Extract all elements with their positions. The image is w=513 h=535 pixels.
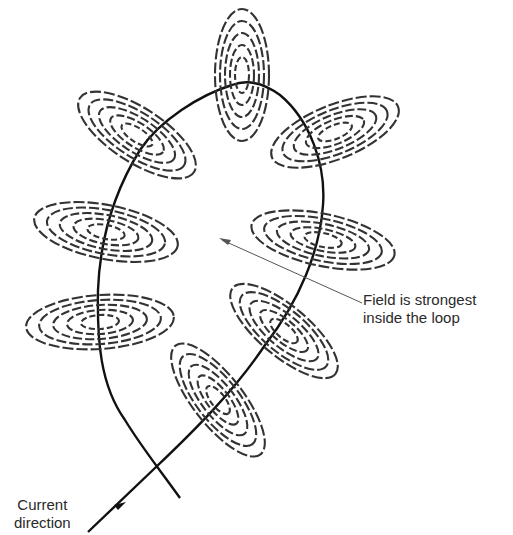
current-arrow-icon bbox=[114, 502, 126, 510]
field-pointer-arrow-icon bbox=[219, 238, 231, 245]
field-pointer-line bbox=[222, 240, 362, 303]
field-label-line1: Field is strongest bbox=[363, 291, 476, 309]
current-label-line1: Current bbox=[14, 496, 71, 514]
current-loop-diagram bbox=[0, 0, 513, 535]
current-direction-annotation: Current direction bbox=[14, 496, 71, 532]
field-ring-upper-right bbox=[262, 81, 408, 182]
field-strength-annotation: Field is strongest inside the loop bbox=[363, 291, 476, 327]
field-ring-lower-right bbox=[217, 269, 352, 393]
field-ring-top bbox=[215, 9, 269, 141]
field-label-line2: inside the loop bbox=[363, 309, 476, 327]
field-ring-upper-left bbox=[65, 75, 208, 194]
current-label-line2: direction bbox=[14, 514, 71, 532]
field-ring-lower-left bbox=[24, 290, 175, 354]
